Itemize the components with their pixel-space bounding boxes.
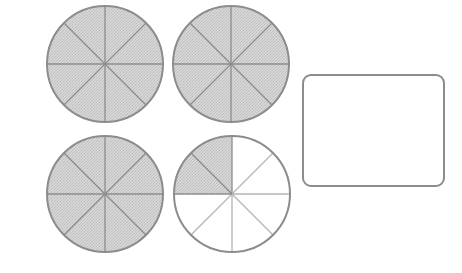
circle-1 xyxy=(47,6,163,122)
circle-3 xyxy=(47,136,163,252)
circle-4 xyxy=(174,136,290,252)
answer-box[interactable] xyxy=(302,74,445,187)
circle-2 xyxy=(173,6,289,122)
